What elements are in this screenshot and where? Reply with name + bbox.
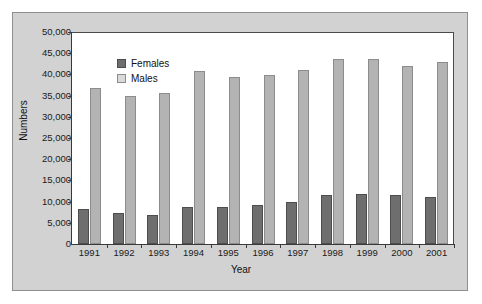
x-axis-tick-mark [315, 245, 316, 248]
bar-females-2001 [425, 197, 436, 244]
legend-item-males[interactable]: Males [117, 72, 169, 85]
legend-swatch-icon [117, 59, 126, 68]
x-axis-tick-mark [176, 245, 177, 248]
y-axis-tick-label: 15,000 [15, 176, 71, 186]
chart-legend: FemalesMales [117, 57, 169, 85]
x-axis-tick-label: 2001 [426, 247, 447, 258]
x-axis-tick-label: 1996 [252, 247, 273, 258]
x-axis: 1991199219931994199519961997199819992000… [72, 247, 454, 261]
y-axis-title: Numbers [18, 86, 29, 156]
y-axis-tick-label: 0 [15, 239, 71, 249]
legend-item-females[interactable]: Females [117, 57, 169, 70]
y-axis-tick-label: 40,000 [15, 70, 71, 80]
x-axis-tick-label: 1992 [114, 247, 135, 258]
x-axis-tick-mark [419, 245, 420, 248]
chart-figure: 05,00010,00015,00020,00025,00030,00035,0… [12, 12, 468, 291]
x-axis-line [71, 244, 455, 245]
x-axis-tick-label: 2000 [391, 247, 412, 258]
x-axis-tick-mark [107, 245, 108, 248]
y-axis-tick-label: 20,000 [15, 154, 71, 164]
x-axis-tick-mark [454, 245, 455, 248]
x-axis-tick-mark [350, 245, 351, 248]
x-axis-title: Year [13, 264, 469, 275]
legend-label: Males [131, 73, 158, 84]
x-axis-tick-label: 1999 [357, 247, 378, 258]
x-axis-tick-label: 1991 [79, 247, 100, 258]
x-axis-tick-mark [280, 245, 281, 248]
x-axis-tick-label: 1993 [148, 247, 169, 258]
x-axis-tick-label: 1995 [218, 247, 239, 258]
legend-label: Females [131, 58, 169, 69]
x-axis-tick-label: 1997 [287, 247, 308, 258]
y-axis-tick-label: 5,000 [15, 218, 71, 228]
y-axis-tick-label: 45,000 [15, 48, 71, 58]
legend-swatch-icon [117, 74, 126, 83]
x-axis-tick-label: 1998 [322, 247, 343, 258]
bar-males-2001 [437, 62, 448, 244]
x-axis-tick-label: 1994 [183, 247, 204, 258]
x-axis-tick-mark [246, 245, 247, 248]
y-axis-tick-label: 10,000 [15, 197, 71, 207]
x-axis-tick-mark [385, 245, 386, 248]
y-axis-tick-label: 50,000 [15, 27, 71, 37]
x-axis-tick-mark [141, 245, 142, 248]
x-axis-tick-mark [211, 245, 212, 248]
